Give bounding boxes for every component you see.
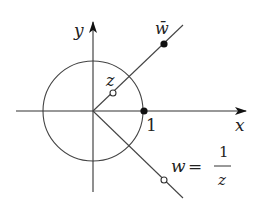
complex-plane-diagram: y x 1 z w̄ w = 1 z [0, 0, 257, 210]
y-axis-label: y [73, 20, 84, 40]
equation-lhs: w [171, 156, 186, 176]
one-label: 1 [146, 115, 157, 135]
x-axis-label: x [235, 115, 245, 135]
z-label: z [105, 71, 115, 90]
equation-equals: = [188, 156, 202, 176]
diagram-canvas: y x 1 z w̄ w = 1 z [0, 0, 257, 210]
ray-w [93, 111, 183, 198]
equation-numerator: 1 [219, 143, 229, 161]
point-w [161, 177, 167, 183]
point-one [140, 107, 147, 114]
equation-denominator: z [217, 171, 226, 189]
point-w-bar [160, 40, 167, 47]
w-bar-label: w̄ [155, 19, 169, 38]
point-z [110, 90, 116, 96]
ray-z-wbar [93, 25, 183, 111]
